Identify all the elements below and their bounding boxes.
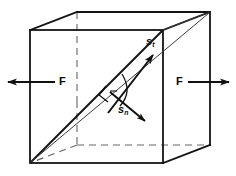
label-st-subscript: t (152, 41, 154, 48)
right-angle-marker (99, 86, 108, 102)
cube-edge-depth-top-left (30, 12, 77, 30)
section-plane-front-diagonal (31, 31, 162, 162)
hidden-edge-bottom-left-depth (30, 145, 77, 163)
figure-canvas: st sn F F (0, 0, 236, 176)
cube-edge-depth-bottom-right (163, 145, 210, 163)
section-plane-top-edge (163, 12, 210, 30)
label-tangential-stress: st (146, 36, 154, 49)
section-plane (31, 12, 210, 162)
stress-vectors (108, 55, 153, 121)
label-normal-stress: sn (118, 104, 128, 117)
section-plane-back-diagonal (31, 13, 209, 162)
label-sn-subscript: n (124, 109, 128, 116)
cube-stress-diagram (0, 0, 236, 176)
label-force-left: F (59, 76, 66, 87)
label-force-right: F (176, 76, 183, 87)
